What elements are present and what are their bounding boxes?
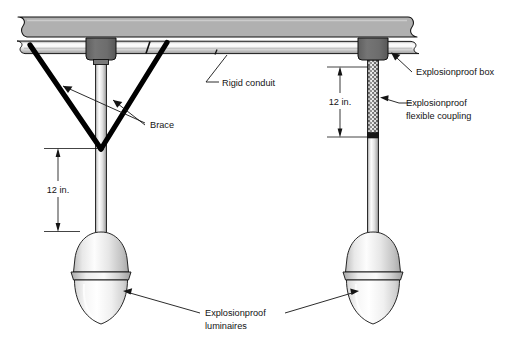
luminaires-label-line1: Explosionproof bbox=[205, 308, 266, 318]
luminaires-label-line2: luminaires bbox=[205, 321, 247, 331]
ceiling-slab bbox=[18, 17, 417, 37]
explosionproof-luminaire-diagram: 12 in. bbox=[0, 0, 518, 354]
right-explosionproof-box bbox=[358, 38, 388, 60]
right-drop-pipe bbox=[368, 133, 379, 235]
explosionproof-box-label-text: Explosionproof box bbox=[416, 67, 495, 77]
brace-label-text: Brace bbox=[150, 120, 174, 130]
right-dimension-label: 12 in. bbox=[329, 97, 351, 107]
diagram-canvas: 12 in. bbox=[0, 0, 518, 354]
rigid-conduit-label-text: Rigid conduit bbox=[222, 78, 276, 88]
coupling-label-line2: flexible coupling bbox=[406, 111, 471, 121]
explosionproof-flexible-coupling bbox=[368, 60, 379, 138]
left-dimension-label: 12 in. bbox=[47, 185, 69, 195]
coupling-label-line1: Explosionproof bbox=[406, 98, 467, 108]
